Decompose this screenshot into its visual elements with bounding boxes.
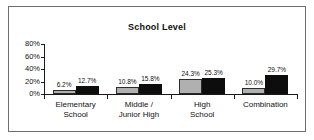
bar-value-label: 29.7% bbox=[262, 66, 292, 73]
category-label-line: Combination bbox=[234, 100, 297, 110]
category-label-line: High bbox=[171, 100, 234, 110]
bar-value-label: 12.7% bbox=[72, 77, 102, 84]
y-tick-label: 40% bbox=[25, 64, 40, 73]
bar-group-bars bbox=[107, 44, 170, 94]
category-label-line: Elementary bbox=[44, 100, 107, 110]
category-label: Combination bbox=[234, 100, 297, 110]
x-tick-mark bbox=[44, 94, 45, 99]
bar-group bbox=[107, 44, 170, 94]
category-label: HighSchool bbox=[171, 100, 234, 120]
x-tick-mark bbox=[234, 94, 235, 99]
bar-value-label: 10.0% bbox=[239, 79, 269, 86]
chart-title: School Level bbox=[0, 22, 314, 32]
category-label-line: School bbox=[171, 110, 234, 120]
x-tick-mark bbox=[171, 94, 172, 99]
category-label: Middle /Junior High bbox=[107, 100, 170, 120]
bar-value-label: 15.8% bbox=[135, 75, 165, 82]
y-tick-label: 80% bbox=[25, 39, 40, 48]
bar-series-a bbox=[116, 87, 139, 94]
bar-series-a bbox=[53, 90, 76, 94]
category-label: ElementarySchool bbox=[44, 100, 107, 120]
y-tick-label: 20% bbox=[25, 77, 40, 86]
bar-series-a bbox=[179, 79, 202, 94]
bar-series-b bbox=[139, 84, 162, 94]
plot-area: 80%60%40%20%0% 6.2%12.7%10.8%15.8%24.3%2… bbox=[44, 44, 297, 94]
x-tick-mark bbox=[107, 94, 108, 99]
y-tick-label: 0% bbox=[29, 89, 40, 98]
bar-series-b bbox=[202, 78, 225, 94]
y-tick-label: 60% bbox=[25, 52, 40, 61]
x-tick-mark bbox=[297, 94, 298, 99]
chart-figure: School Level 80%60%40%20%0% 6.2%12.7%10.… bbox=[0, 0, 314, 140]
category-label-line: Middle / bbox=[107, 100, 170, 110]
category-label-line: Junior High bbox=[107, 110, 170, 120]
category-label-line: School bbox=[44, 110, 107, 120]
bar-value-label: 25.3% bbox=[199, 69, 229, 76]
bar-series-a bbox=[242, 88, 265, 94]
